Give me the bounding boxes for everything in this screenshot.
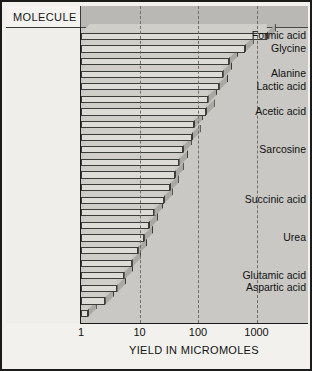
molecule-label-formic-acid: Formic acid xyxy=(252,30,306,41)
molecule-label-succinic-acid: Succinic acid xyxy=(245,194,306,205)
molecule-label-urea: Urea xyxy=(283,232,306,243)
bar-18 xyxy=(81,260,132,267)
bar-6 xyxy=(81,108,206,115)
x-tick-label-1000: 1000 xyxy=(244,326,268,338)
bar-7 xyxy=(81,121,194,128)
x-tick-label-100: 100 xyxy=(189,326,207,338)
bar-top-face xyxy=(81,24,267,33)
bar-16 xyxy=(81,234,144,241)
molecule-label-aspartic-acid: Aspartic acid xyxy=(246,282,306,293)
bar-11 xyxy=(81,171,175,178)
bar-5 xyxy=(81,96,208,103)
molecule-label-sarcosine: Sarcosine xyxy=(259,144,306,155)
bar-13 xyxy=(81,197,164,204)
chart-figure: MOLECULE 1101001000 YIELD IN MICROMOLES … xyxy=(0,0,312,371)
bar-1 xyxy=(81,45,245,52)
bar-12 xyxy=(81,184,170,191)
bar-20 xyxy=(81,285,117,292)
x-axis-title: YIELD IN MICROMOLES xyxy=(80,344,308,356)
x-axis-line xyxy=(80,323,308,324)
molecule-label-glutamic-acid: Glutamic acid xyxy=(242,270,306,281)
bar-19 xyxy=(81,272,124,279)
gridline-10 xyxy=(140,6,141,323)
bar-0 xyxy=(81,33,267,40)
gridline-100 xyxy=(198,6,199,323)
x-tick-label-10: 10 xyxy=(133,326,145,338)
molecule-label-lactic-acid: Lactic acid xyxy=(256,81,306,92)
molecule-label-acetic-acid: Acetic acid xyxy=(255,106,306,117)
bar-10 xyxy=(81,159,179,166)
bar-9 xyxy=(81,146,183,153)
bar-2 xyxy=(81,58,229,65)
molecule-label-alanine: Alanine xyxy=(271,68,306,79)
y-axis-line xyxy=(80,27,81,323)
bar-3 xyxy=(81,71,223,78)
bar-22 xyxy=(81,310,88,317)
bar-group xyxy=(2,2,312,371)
x-tick-label-1: 1 xyxy=(78,326,84,338)
bar-21 xyxy=(81,297,105,304)
bar-17 xyxy=(81,247,138,254)
bar-8 xyxy=(81,134,192,141)
bar-14 xyxy=(81,209,154,216)
molecule-label-glycine: Glycine xyxy=(271,43,306,54)
